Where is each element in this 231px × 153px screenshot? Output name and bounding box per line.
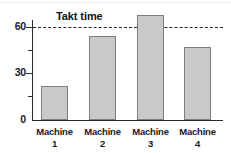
y-axis-line bbox=[32, 20, 33, 121]
x-label-machine-4-line2: 4 bbox=[168, 138, 227, 150]
y-tick-label-0: 0 bbox=[2, 113, 26, 125]
y-tick-mark-45 bbox=[28, 50, 33, 51]
x-label-machine-1-line1: Machine bbox=[36, 126, 73, 137]
bar-machine-2 bbox=[89, 36, 116, 120]
y-tick-label-30: 30 bbox=[2, 66, 26, 78]
y-tick-mark-30 bbox=[26, 73, 33, 74]
y-tick-mark-15 bbox=[28, 96, 33, 97]
takt-time-bar-chart: 60 30 0 Takt time Machine 1 Machine 2 Ma… bbox=[0, 0, 231, 153]
bar-machine-4 bbox=[184, 47, 211, 120]
scan-artifact-line bbox=[0, 2, 231, 3]
x-label-machine-4-line1: Machine bbox=[179, 126, 216, 137]
takt-time-label: Takt time bbox=[56, 10, 103, 22]
x-label-machine-3-line1: Machine bbox=[132, 126, 169, 137]
x-label-machine-2-line1: Machine bbox=[84, 126, 121, 137]
bar-machine-3 bbox=[137, 15, 164, 120]
takt-time-line bbox=[33, 27, 223, 28]
y-tick-label-60: 60 bbox=[2, 20, 26, 32]
y-tick-mark-60 bbox=[26, 27, 33, 28]
bar-machine-1 bbox=[41, 86, 68, 120]
x-label-machine-4: Machine 4 bbox=[168, 126, 227, 149]
